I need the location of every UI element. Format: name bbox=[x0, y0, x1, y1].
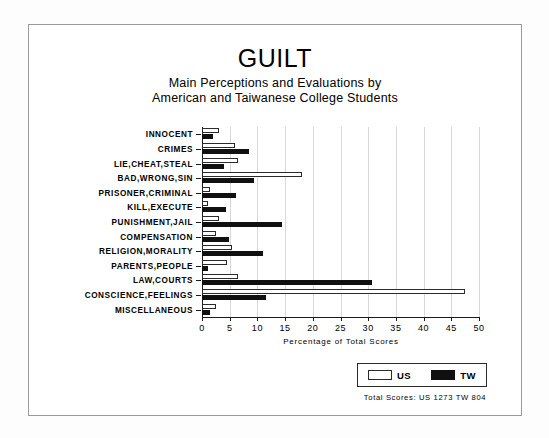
x-tick-20 bbox=[313, 317, 314, 321]
legend-swatch-tw bbox=[431, 370, 455, 380]
category-tick bbox=[196, 295, 201, 296]
category-row: BAD,WRONG,SIN bbox=[202, 171, 479, 186]
category-label: PUNISHMENT,JAIL bbox=[112, 217, 194, 226]
category-tick bbox=[196, 266, 201, 267]
x-tick-label: 40 bbox=[418, 323, 429, 333]
x-tick-label: 45 bbox=[446, 323, 457, 333]
x-tick-45 bbox=[451, 317, 452, 321]
bar-tw bbox=[202, 310, 210, 315]
category-label: BAD,WRONG,SIN bbox=[118, 174, 193, 183]
x-tick-0 bbox=[202, 317, 203, 321]
bar-tw bbox=[202, 178, 254, 183]
x-tick-25 bbox=[341, 317, 342, 321]
bar-us bbox=[202, 231, 216, 236]
chart-figure: GUILT Main Perceptions and Evaluations b… bbox=[0, 0, 549, 438]
x-tick-15 bbox=[285, 317, 286, 321]
bar-us bbox=[202, 201, 208, 206]
bar-group bbox=[202, 304, 479, 316]
x-tick-label: 15 bbox=[279, 323, 290, 333]
x-tick-10 bbox=[257, 317, 258, 321]
x-tick-label: 30 bbox=[363, 323, 374, 333]
category-tick bbox=[196, 164, 201, 165]
category-tick bbox=[196, 207, 201, 208]
subtitle-line-2: American and Taiwanese College Students bbox=[29, 91, 521, 106]
category-tick bbox=[196, 193, 201, 194]
category-row: PUNISHMENT,JAIL bbox=[202, 215, 479, 230]
category-row: CONSCIENCE,FEELINGS bbox=[202, 288, 479, 303]
category-tick bbox=[196, 178, 201, 179]
bar-group bbox=[202, 274, 479, 286]
legend-entry-us: US bbox=[368, 370, 411, 381]
x-tick-50 bbox=[479, 317, 480, 321]
bar-tw bbox=[202, 222, 282, 227]
bar-us bbox=[202, 304, 216, 309]
category-label: PARENTS,PEOPLE bbox=[111, 261, 193, 270]
bar-tw bbox=[202, 193, 236, 198]
bar-group bbox=[202, 245, 479, 257]
category-row: INNOCENT bbox=[202, 127, 479, 142]
bar-us bbox=[202, 260, 227, 265]
x-tick-30 bbox=[368, 317, 369, 321]
category-tick bbox=[196, 134, 201, 135]
category-row: COMPENSATION bbox=[202, 229, 479, 244]
category-tick bbox=[196, 251, 201, 252]
x-tick-label: 10 bbox=[252, 323, 263, 333]
category-label: MISCELLANEOUS bbox=[115, 305, 193, 314]
bar-group bbox=[202, 289, 479, 301]
category-label: LAW,COURTS bbox=[133, 276, 193, 285]
bar-us bbox=[202, 143, 235, 148]
bar-group bbox=[202, 201, 479, 213]
legend-label-us: US bbox=[397, 370, 411, 381]
bar-group bbox=[202, 158, 479, 170]
category-tick bbox=[196, 237, 201, 238]
bar-us bbox=[202, 216, 219, 221]
x-tick-label: 20 bbox=[307, 323, 318, 333]
category-row: LAW,COURTS bbox=[202, 273, 479, 288]
category-label: COMPENSATION bbox=[120, 232, 193, 241]
totals-note: Total Scores: US 1273 TW 804 bbox=[345, 393, 505, 402]
subtitle-line-1: Main Perceptions and Evaluations by bbox=[29, 76, 521, 91]
category-label: KILL,EXECUTE bbox=[127, 203, 193, 212]
legend-entry-tw: TW bbox=[431, 370, 476, 381]
bar-group bbox=[202, 260, 479, 272]
category-label: INNOCENT bbox=[146, 130, 193, 139]
category-row: KILL,EXECUTE bbox=[202, 200, 479, 215]
bar-us bbox=[202, 128, 219, 133]
bar-group bbox=[202, 172, 479, 184]
legend-swatch-us bbox=[368, 370, 392, 380]
category-label: CONSCIENCE,FEELINGS bbox=[85, 291, 193, 300]
category-label: PRISONER,CRIMINAL bbox=[99, 188, 193, 197]
bar-group bbox=[202, 187, 479, 199]
legend-label-tw: TW bbox=[460, 370, 476, 381]
chart-legend: US TW bbox=[357, 363, 487, 387]
bar-group bbox=[202, 128, 479, 140]
bar-tw bbox=[202, 164, 224, 169]
category-tick bbox=[196, 280, 201, 281]
bar-us bbox=[202, 172, 302, 177]
bar-us bbox=[202, 274, 238, 279]
category-label: LIE,CHEAT,STEAL bbox=[114, 159, 193, 168]
bar-tw bbox=[202, 149, 249, 154]
category-tick bbox=[196, 222, 201, 223]
category-row: PRISONER,CRIMINAL bbox=[202, 185, 479, 200]
x-tick-5 bbox=[230, 317, 231, 321]
bar-us bbox=[202, 289, 465, 294]
title-block: GUILT Main Perceptions and Evaluations b… bbox=[29, 45, 521, 106]
x-tick-label: 0 bbox=[199, 323, 205, 333]
bar-us bbox=[202, 187, 210, 192]
category-tick bbox=[196, 310, 201, 311]
category-row: MISCELLANEOUS bbox=[202, 302, 479, 317]
bar-group bbox=[202, 216, 479, 228]
bar-tw bbox=[202, 207, 226, 212]
category-label: CRIMES bbox=[158, 144, 193, 153]
x-tick-label: 5 bbox=[227, 323, 233, 333]
bar-tw bbox=[202, 134, 213, 139]
bar-group bbox=[202, 143, 479, 155]
bar-tw bbox=[202, 266, 208, 271]
bar-tw bbox=[202, 237, 229, 242]
x-tick-35 bbox=[396, 317, 397, 321]
bar-us bbox=[202, 158, 238, 163]
gridline-50 bbox=[479, 127, 480, 317]
chart-frame: GUILT Main Perceptions and Evaluations b… bbox=[28, 24, 522, 416]
x-tick-40 bbox=[424, 317, 425, 321]
